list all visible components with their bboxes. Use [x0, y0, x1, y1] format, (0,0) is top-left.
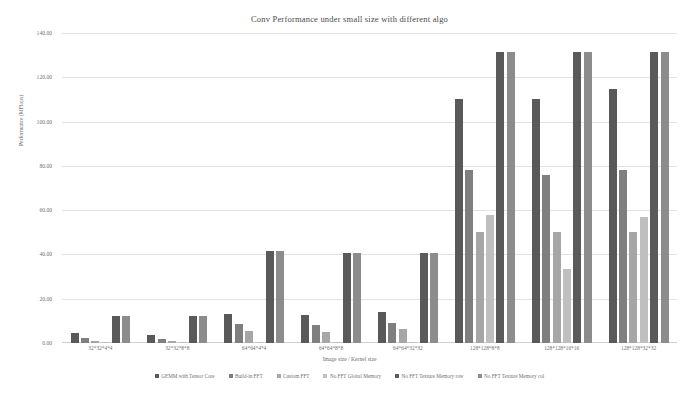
- bar: [235, 324, 243, 343]
- legend-item[interactable]: No FFT Texture Memory col: [478, 373, 545, 379]
- bar: [496, 52, 504, 343]
- legend-item[interactable]: Build-in FFT: [229, 373, 263, 379]
- bar-group: [62, 33, 139, 343]
- bar: [312, 325, 320, 343]
- bar-group: [446, 33, 523, 343]
- bar: [584, 52, 592, 343]
- chart-legend: GEMM with Tensor CoreBuild-in FFTCustom …: [0, 373, 699, 379]
- bar-group: [370, 33, 447, 343]
- y-axis-tick-labels: 0.0020.0040.0060.0080.00100.00120.00140.…: [0, 33, 56, 343]
- legend-swatch-icon: [155, 374, 159, 378]
- chart-root: Conv Performance under small size with d…: [0, 0, 699, 399]
- bar: [122, 316, 130, 343]
- y-tick-label: 80.00: [0, 163, 52, 169]
- y-tick-label: 0.00: [0, 340, 52, 346]
- bar: [619, 170, 627, 343]
- y-tick-label: 60.00: [0, 207, 52, 213]
- bar: [91, 341, 99, 343]
- legend-label: Build-in FFT: [235, 373, 263, 379]
- bar: [455, 99, 463, 343]
- bar: [255, 342, 263, 343]
- bar: [573, 52, 581, 343]
- bar-groups: [62, 33, 677, 343]
- bar: [71, 333, 79, 343]
- bar: [199, 316, 207, 343]
- bar: [378, 312, 386, 343]
- bar: [147, 335, 155, 343]
- bar: [102, 342, 110, 343]
- legend-item[interactable]: GEMM with Tensor Core: [155, 373, 215, 379]
- bar: [553, 232, 561, 343]
- bar: [266, 251, 274, 343]
- bar-group: [600, 33, 677, 343]
- y-tick-label: 20.00: [0, 296, 52, 302]
- bar: [430, 253, 438, 343]
- bar: [189, 316, 197, 343]
- bar: [409, 342, 417, 343]
- bar: [322, 332, 330, 344]
- bar: [465, 170, 473, 343]
- bar: [343, 253, 351, 343]
- bar-group: [139, 33, 216, 343]
- bar: [640, 217, 648, 343]
- legend-swatch-icon: [323, 374, 327, 378]
- bar: [388, 323, 396, 343]
- legend-label: GEMM with Tensor Core: [161, 373, 214, 379]
- legend-swatch-icon: [395, 374, 399, 378]
- bar: [532, 99, 540, 343]
- bar: [420, 253, 428, 343]
- bar-group: [216, 33, 293, 343]
- legend-label: No FFT Texture Memory col: [484, 373, 544, 379]
- bar: [158, 339, 166, 343]
- y-tick-label: 140.00: [0, 30, 52, 36]
- chart-title: Conv Performance under small size with d…: [0, 14, 699, 24]
- legend-item[interactable]: No FFT Texture Memory row: [395, 373, 463, 379]
- legend-item[interactable]: No FFT Global Memory: [323, 373, 381, 379]
- legend-label: No FFT Texture Memory row: [402, 373, 464, 379]
- legend-label: No FFT Global Memory: [330, 373, 381, 379]
- bar: [476, 232, 484, 343]
- legend-label: Custom FFT: [283, 373, 309, 379]
- bar: [353, 253, 361, 343]
- legend-swatch-icon: [277, 374, 281, 378]
- plot-area: [62, 33, 677, 343]
- bar: [276, 251, 284, 343]
- legend-item[interactable]: Custom FFT: [277, 373, 310, 379]
- bar: [81, 338, 89, 343]
- bar: [661, 52, 669, 343]
- legend-swatch-icon: [478, 374, 482, 378]
- bar: [609, 89, 617, 343]
- bar: [486, 215, 494, 343]
- y-tick-label: 120.00: [0, 74, 52, 80]
- bar: [112, 316, 120, 343]
- legend-swatch-icon: [229, 374, 233, 378]
- bar: [332, 342, 340, 343]
- bar: [224, 314, 232, 343]
- bar-group: [293, 33, 370, 343]
- bar: [168, 341, 176, 343]
- y-tick-label: 100.00: [0, 118, 52, 124]
- y-tick-label: 40.00: [0, 251, 52, 257]
- bar: [301, 315, 309, 343]
- bar: [650, 52, 658, 343]
- bar: [542, 175, 550, 343]
- bar: [179, 342, 187, 343]
- bar: [629, 232, 637, 343]
- bar: [245, 331, 253, 343]
- x-axis-title: Image size / Kernel size: [0, 356, 699, 362]
- bar-group: [523, 33, 600, 343]
- bar: [563, 269, 571, 343]
- bar: [399, 329, 407, 343]
- bar: [507, 52, 515, 343]
